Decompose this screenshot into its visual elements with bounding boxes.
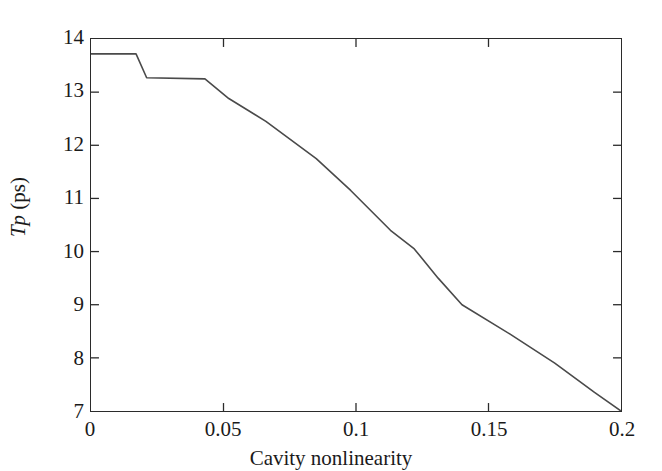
y-tick-label: 12 bbox=[32, 134, 84, 155]
y-axis-title: Tp (ps) bbox=[7, 127, 29, 287]
chart-figure: 7891011121314 00.050.10.150.2 Cavity non… bbox=[0, 0, 662, 471]
plot-canvas bbox=[91, 39, 621, 411]
x-tick-label: 0.05 bbox=[205, 417, 242, 441]
x-axis-title: Cavity nonlinearity bbox=[0, 447, 662, 469]
y-axis-symbol-p: p bbox=[6, 215, 30, 226]
data-series-line bbox=[91, 54, 621, 411]
x-tick-label: 0.2 bbox=[609, 417, 635, 441]
y-tick-label: 14 bbox=[32, 27, 84, 48]
y-tick-label: 9 bbox=[32, 294, 84, 315]
y-tick-label: 8 bbox=[32, 348, 84, 369]
y-tick-label: 10 bbox=[32, 241, 84, 262]
x-tick-label: 0 bbox=[85, 417, 96, 441]
x-tick-label: 0.15 bbox=[471, 417, 508, 441]
y-axis-symbol-T: T bbox=[6, 225, 30, 237]
y-axis-unit: (ps) bbox=[6, 177, 30, 210]
y-tick-label: 13 bbox=[32, 80, 84, 101]
plot-area bbox=[90, 38, 622, 412]
y-tick-label: 11 bbox=[32, 187, 84, 208]
x-tick-label: 0.1 bbox=[343, 417, 369, 441]
